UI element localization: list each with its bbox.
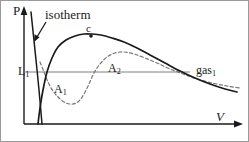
binodal-coexistence-curve (38, 34, 237, 124)
pv-isotherm-figure: P V isotherm c L1 A1 A2 gas1 (0, 0, 249, 142)
area-two-label: A2 (108, 62, 121, 74)
area-two-label-text: A (108, 61, 117, 75)
area-two-label-subscript: 2 (117, 67, 121, 76)
isotherm-label: isotherm (45, 8, 91, 21)
liquid-branch-line (31, 12, 42, 124)
critical-point-label: c (86, 23, 91, 34)
liquid-point-label: L1 (18, 65, 29, 77)
y-axis-label: P (13, 4, 20, 17)
gas-point-label-text: gas (196, 63, 212, 77)
gas-point-label: gas1 (196, 64, 216, 76)
critical-point-marker (89, 34, 93, 38)
liquid-point-label-subscript: 1 (25, 70, 29, 79)
x-axis-arrowhead (234, 121, 243, 128)
isotherm-annotation-arrow (34, 22, 46, 42)
area-one-label: A1 (54, 83, 67, 95)
area-one-label-text: A (54, 82, 63, 96)
gas-point-label-subscript: 1 (212, 69, 216, 78)
y-axis-arrowhead (21, 6, 28, 15)
area-one-label-subscript: 1 (63, 88, 67, 97)
x-axis-label: V (216, 110, 224, 123)
vanderwaals-isotherm-curve (40, 52, 240, 104)
